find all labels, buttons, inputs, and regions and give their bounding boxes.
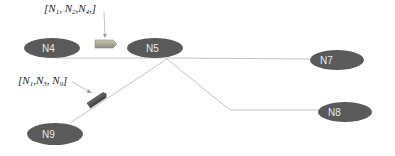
node-n5-label: N5 <box>146 43 159 54</box>
node-n5[interactable]: N5 <box>127 38 183 58</box>
edge-n5-n9 <box>70 59 167 123</box>
node-n7[interactable]: N7 <box>310 50 364 70</box>
edges <box>55 58 320 123</box>
edge-n5-n7 <box>175 58 312 59</box>
arrow-1-head <box>103 34 107 38</box>
node-n9[interactable]: N9 <box>27 123 83 145</box>
arrow-2-head <box>87 89 92 93</box>
packet-icon <box>95 40 117 48</box>
node-n7-label: N7 <box>320 55 333 66</box>
node-n4[interactable]: N4 <box>24 38 80 58</box>
arrow-1 <box>104 12 105 36</box>
node-n4-label: N4 <box>42 43 55 54</box>
packet-1-annotation: [N1, N2,N4,] <box>44 2 96 16</box>
packet-2-annotation: [N1,N3, N9] <box>18 74 67 88</box>
node-n9-label: N9 <box>42 129 55 140</box>
network-diagram: N4 N5 N7 N8 N9 [N1, N2,N4,] <box>0 0 395 156</box>
edge-n5-n8 <box>167 59 320 110</box>
arrow-2 <box>72 82 90 92</box>
packet-1 <box>95 40 117 48</box>
node-n8-label: N8 <box>328 107 341 118</box>
node-n8[interactable]: N8 <box>318 102 372 122</box>
